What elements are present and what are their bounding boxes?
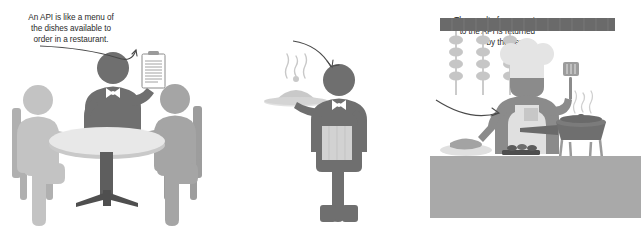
steam-icon (286, 54, 307, 78)
waiter-with-tray (294, 64, 367, 222)
curved-arrow-icon (293, 41, 339, 67)
panel-restaurant-table: An API is like a menu of the dishes avai… (0, 0, 215, 227)
illustration-canvas: An API is like a menu of the dishes avai… (0, 0, 641, 227)
steam-icon (574, 91, 593, 113)
burner-stand (560, 140, 602, 158)
curved-arrow-icon (436, 100, 499, 116)
covered-dish-icon (264, 76, 328, 107)
round-table (49, 127, 165, 207)
panel-waiter-serving: The result of a request to the API is re… (215, 0, 430, 227)
cutting-board (440, 138, 492, 156)
chef (478, 38, 572, 154)
waiter-scene-art (215, 0, 430, 227)
counter (430, 156, 641, 218)
caption-api-menu: An API is like a menu of the dishes avai… (8, 12, 134, 46)
menu-clipboard-icon (142, 51, 165, 88)
panel-kitchen-chef: Just like a chef in a restaurant, the co… (430, 0, 641, 227)
ceiling-rail (440, 18, 615, 31)
kitchen-scene-art (430, 0, 641, 227)
